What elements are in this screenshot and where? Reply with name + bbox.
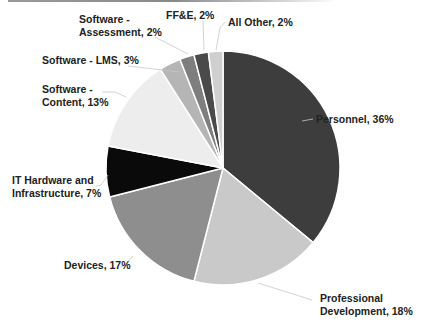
label-personnel: Personnel, 36%	[316, 113, 394, 126]
label-all-other: All Other, 2%	[228, 16, 293, 29]
label-line: Software -	[42, 83, 109, 96]
label-line: Software -	[79, 13, 162, 26]
label-ffe: FF&E, 2%	[166, 9, 214, 22]
label-devices: Devices, 17%	[64, 259, 131, 272]
label-software-content: Software - Content, 13%	[42, 83, 109, 109]
leader-ffe	[203, 20, 204, 50]
label-professional-development: Professional Development, 18%	[320, 292, 413, 318]
label-line: Software - LMS, 3%	[42, 54, 139, 67]
label-line: FF&E, 2%	[166, 9, 214, 22]
leader-sw-assessment	[155, 37, 188, 54]
label-software-lms: Software - LMS, 3%	[42, 54, 139, 67]
label-line: Personnel, 36%	[316, 113, 394, 126]
pie-slices	[106, 51, 340, 285]
leader-all-other	[216, 22, 225, 50]
label-line: IT Hardware and	[12, 174, 101, 187]
leader-prof-dev	[258, 283, 312, 300]
label-line: Devices, 17%	[64, 259, 131, 272]
label-line: Professional	[320, 292, 413, 305]
label-line: Development, 18%	[320, 305, 413, 318]
label-it-hardware: IT Hardware and Infrastructure, 7%	[12, 174, 101, 200]
pie-chart	[0, 0, 431, 324]
label-line: Assessment, 2%	[79, 26, 162, 39]
label-line: All Other, 2%	[228, 16, 293, 29]
label-line: Content, 13%	[42, 96, 109, 109]
label-software-assessment: Software - Assessment, 2%	[79, 13, 162, 39]
label-line: Infrastructure, 7%	[12, 187, 101, 200]
